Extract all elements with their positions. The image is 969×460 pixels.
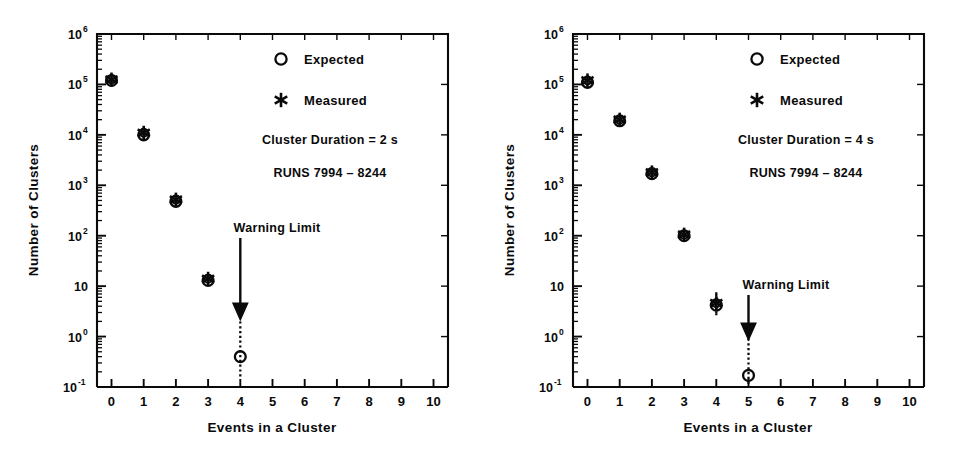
x-tick-label: 3 [680, 394, 687, 409]
y-tick-label: 10 [68, 129, 82, 143]
x-tick-label: 1 [140, 394, 147, 409]
legend-label-expected-right: Expected [780, 52, 840, 67]
x-tick-label: 0 [108, 394, 115, 409]
y-tick-label-exponent: 0 [83, 327, 88, 337]
annotation-runs-right: RUNS 7994 – 8244 [749, 166, 862, 180]
y-tick-label-exponent: 4 [83, 125, 88, 135]
legend-label-measured-right: Measured [780, 93, 843, 108]
legend-marker-expected-icon [751, 53, 762, 64]
x-tick-label: 2 [648, 394, 655, 409]
y-tick-label-exponent: 6 [83, 24, 88, 34]
x-tick-label: 0 [584, 394, 591, 409]
y-axis-label-left: Number of Clusters [26, 144, 41, 276]
y-tick-label-exponent: 4 [559, 125, 564, 135]
x-tick-label: 8 [841, 394, 848, 409]
annotation-warning-limit-left: Warning Limit [234, 221, 321, 235]
legend-right [751, 53, 763, 107]
annotation-warning-limit-right: Warning Limit [743, 278, 830, 292]
annotation-cluster-duration-left: Cluster Duration = 2 s [262, 133, 398, 147]
y-tick-label: 10 [68, 179, 82, 193]
y-axis-ticks-left [97, 34, 448, 387]
annotation-cluster-duration-right: Cluster Duration = 4 s [738, 133, 874, 147]
y-tick-label: 10 [68, 230, 82, 244]
y-tick-label-exponent: -1 [554, 377, 562, 387]
y-tick-label: 10 [544, 179, 558, 193]
arrow-head [741, 323, 756, 340]
y-tick-label: 10 [63, 381, 77, 395]
y-tick-label: 10 [544, 129, 558, 143]
x-tick-label: 7 [333, 394, 340, 409]
y-tick-label-exponent: 2 [83, 226, 88, 236]
x-tick-label: 10 [426, 394, 440, 409]
x-tick-label: 5 [269, 394, 276, 409]
plot-left: 012345678910 1061051041031021010010-1 Ev… [0, 0, 484, 460]
y-tick-label: 10 [68, 28, 82, 42]
y-tick-label-exponent: 6 [559, 24, 564, 34]
x-tick-label: 10 [902, 394, 916, 409]
y-tick-label: 10 [539, 381, 553, 395]
y-tick-label-exponent: 3 [83, 175, 88, 185]
x-tick-label: 7 [809, 394, 816, 409]
x-axis-label-left: Events in a Cluster [207, 420, 336, 435]
y-tick-label: 10 [68, 78, 82, 92]
x-tick-label: 9 [874, 394, 881, 409]
warning-limit-arrow-left [233, 238, 248, 320]
x-tick-label: 8 [365, 394, 372, 409]
x-tick-label: 5 [745, 394, 752, 409]
legend-marker-expected-icon [275, 53, 286, 64]
chart-panel-right: 012345678910 1061051041031021010010-1 Ev… [476, 0, 960, 460]
annotation-runs-left: RUNS 7994 – 8244 [273, 166, 386, 180]
x-axis-label-right: Events in a Cluster [683, 420, 812, 435]
y-tick-label: 10 [68, 331, 82, 345]
warning-limit-arrow-right [741, 295, 756, 340]
y-tick-label: 10 [74, 280, 88, 294]
x-tick-label: 4 [713, 394, 721, 409]
legend-left [275, 53, 287, 107]
y-tick-label-exponent: 0 [559, 327, 564, 337]
y-tick-label: 10 [550, 280, 564, 294]
legend-label-expected-left: Expected [304, 52, 364, 67]
x-tick-label: 1 [616, 394, 623, 409]
y-tick-label-exponent: -1 [78, 377, 86, 387]
legend-label-measured-left: Measured [304, 93, 367, 108]
y-tick-label-exponent: 2 [559, 226, 564, 236]
y-tick-labels-left: 1061051041031021010010-1 [63, 24, 88, 395]
y-axis-label-right: Number of Clusters [502, 144, 517, 276]
plot-frame-left [97, 34, 448, 387]
arrow-head [233, 303, 248, 320]
x-tick-label: 3 [204, 394, 211, 409]
x-tick-labels-right: 012345678910 [584, 394, 917, 409]
x-tick-label: 9 [398, 394, 405, 409]
x-axis-ticks-left [111, 34, 433, 387]
x-tick-labels-left: 012345678910 [108, 394, 441, 409]
chart-panel-left: 012345678910 1061051041031021010010-1 Ev… [0, 0, 484, 460]
data-markers-right [581, 73, 753, 387]
y-tick-label-exponent: 5 [83, 74, 88, 84]
x-tick-label: 2 [172, 394, 179, 409]
y-tick-label: 10 [544, 78, 558, 92]
plot-right: 012345678910 1061051041031021010010-1 Ev… [476, 0, 960, 460]
legend-marker-measured-icon [275, 93, 287, 107]
figure-container: 012345678910 1061051041031021010010-1 Ev… [0, 0, 969, 460]
y-tick-labels-right: 1061051041031021010010-1 [539, 24, 564, 395]
data-markers-left [105, 73, 245, 379]
y-tick-label-exponent: 3 [559, 175, 564, 185]
x-tick-label: 6 [301, 394, 308, 409]
x-tick-label: 4 [237, 394, 245, 409]
y-tick-label: 10 [544, 230, 558, 244]
legend-marker-measured-icon [751, 93, 763, 107]
x-tick-label: 6 [777, 394, 784, 409]
y-tick-label: 10 [544, 28, 558, 42]
y-tick-label-exponent: 5 [559, 74, 564, 84]
y-tick-label: 10 [544, 331, 558, 345]
